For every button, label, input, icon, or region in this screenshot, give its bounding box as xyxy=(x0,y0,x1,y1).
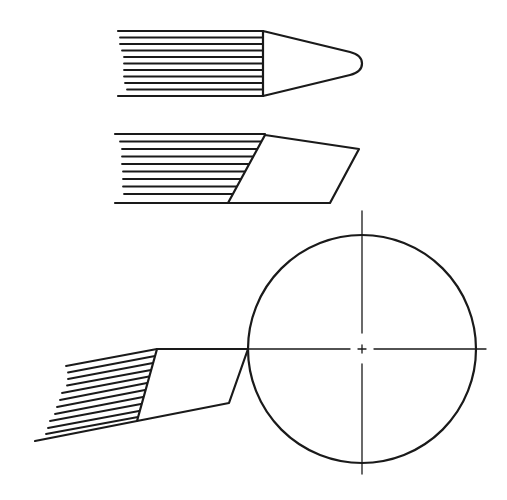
chisel-tip-face xyxy=(228,135,359,203)
chisel-tip-shape xyxy=(115,134,359,203)
angled-chisel-shape xyxy=(35,349,248,441)
circle-with-centerlines xyxy=(240,211,486,474)
technical-drawing xyxy=(0,0,507,500)
pointed-tip-cone xyxy=(263,31,362,96)
angled-chisel-face xyxy=(137,349,248,421)
pointed-tip-shape xyxy=(118,31,362,96)
angled-chisel-hatching xyxy=(35,349,157,441)
pointed-tip-hatching xyxy=(118,31,263,96)
